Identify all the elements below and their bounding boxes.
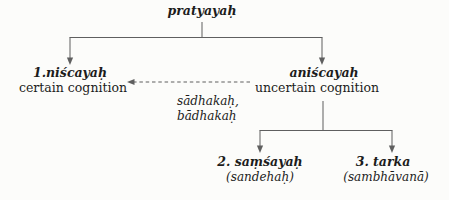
cognition-tree-diagram: pratyayaḥ 1.niścayaḥ certain cognition a… <box>0 0 449 200</box>
node-tarka-term: 3. tarka <box>356 155 411 169</box>
arrowhead-dashed-left <box>127 79 135 85</box>
dashed-arrow-label-line1: sādhakaḥ, <box>177 94 239 109</box>
node-aniscayah-term: aniścayaḥ <box>289 66 358 80</box>
node-samsayah-term: 2. saṃśayaḥ <box>217 155 302 169</box>
arrowhead-to-niscayah <box>67 58 73 66</box>
arrowhead-to-samsayah <box>257 146 263 154</box>
node-niscayah-term: 1.niścayaḥ <box>33 66 107 80</box>
dashed-arrow-label: sādhakaḥ, bādhakaḥ <box>177 94 239 124</box>
arrowhead-to-aniscayah <box>319 58 325 66</box>
dashed-arrow-label-line2: bādhakaḥ <box>177 109 239 124</box>
node-aniscayah-gloss: uncertain cognition <box>255 81 379 95</box>
node-pratyayah-term: pratyayaḥ <box>167 4 236 18</box>
node-tarka-gloss: (sambhāvanā) <box>343 170 428 184</box>
arrowhead-to-tarka <box>389 146 395 154</box>
node-niscayah-gloss: certain cognition <box>19 81 127 95</box>
node-samsayah-gloss: (sandehaḥ) <box>226 170 294 184</box>
